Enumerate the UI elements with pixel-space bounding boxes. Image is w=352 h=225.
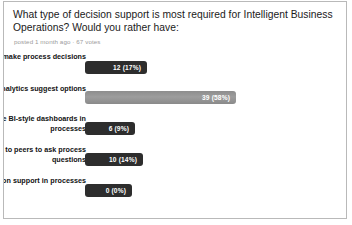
poll-bar-track: 10 (14%) [85, 143, 335, 174]
poll-option-label: No decision support in processes [3, 176, 86, 186]
poll-bar-value: 12 (17%) [113, 61, 141, 74]
poll-option-label: Business rules make process decisions [3, 52, 86, 62]
poll-bar: 39 (58%) [85, 91, 236, 104]
poll-meta: posted 1 month ago · 67 votes [14, 38, 101, 46]
poll-bar: 6 (9%) [85, 122, 135, 135]
poll-bar-track: 39 (58%) [85, 81, 335, 112]
poll-bar-track: 0 (0%) [85, 174, 335, 205]
poll-option-label: Predictive Analytics suggest options [3, 84, 86, 94]
poll-question: What type of decision support is most re… [13, 8, 339, 34]
poll-results-list: Business rules make process decisions 12… [4, 50, 347, 205]
poll-bar-value: 6 (9%) [109, 122, 129, 135]
poll-option-row[interactable]: Simple BI-style dashboards in processes … [4, 112, 347, 143]
poll-option-label: Access to peers to ask process questions [3, 145, 86, 164]
poll-option-row[interactable]: Access to peers to ask process questions… [4, 143, 347, 174]
poll-bar-track: 6 (9%) [85, 112, 335, 143]
poll-option-row[interactable]: Business rules make process decisions 12… [4, 50, 347, 81]
poll-bar-value: 39 (58%) [202, 91, 230, 104]
poll-bar: 0 (0%) [85, 184, 132, 197]
poll-option-label: Simple BI-style dashboards in processes [3, 114, 86, 133]
poll-bar-value: 10 (14%) [109, 153, 137, 166]
poll-option-row[interactable]: Predictive Analytics suggest options 39 … [4, 81, 347, 112]
poll-widget: What type of decision support is most re… [3, 1, 347, 219]
poll-option-row[interactable]: No decision support in processes 0 (0%) [4, 174, 347, 205]
poll-bar: 10 (14%) [85, 153, 143, 166]
poll-bar-track: 12 (17%) [85, 50, 335, 81]
poll-bar-value: 0 (0%) [106, 184, 126, 197]
poll-bar: 12 (17%) [85, 61, 147, 74]
